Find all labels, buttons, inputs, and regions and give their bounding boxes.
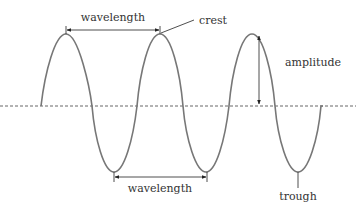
wave-curve [41, 34, 323, 172]
wave-diagram: wavelength crest amplitude wavelength tr… [0, 0, 356, 212]
crest-annotation: crest [161, 14, 228, 33]
wavelength-top-annotation: wavelength [66, 11, 160, 34]
amplitude-annotation: amplitude [259, 36, 341, 104]
wavelength-bottom-annotation: wavelength [114, 172, 207, 195]
amplitude-label: amplitude [285, 56, 341, 69]
trough-label: trough [279, 190, 317, 203]
crest-leader-line [161, 20, 194, 33]
wavelength-top-label: wavelength [81, 11, 145, 24]
crest-label: crest [199, 14, 228, 27]
trough-annotation: trough [279, 172, 317, 203]
wavelength-bottom-label: wavelength [128, 182, 192, 195]
